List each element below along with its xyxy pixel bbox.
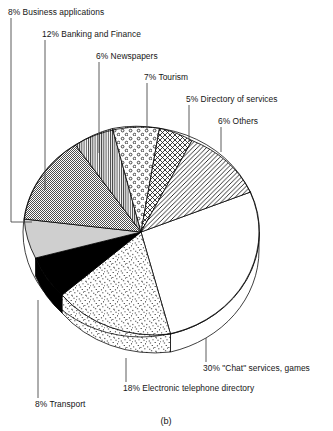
figure-caption: (b) (160, 416, 171, 426)
label-directory-of-services: 5% Directory of services (186, 94, 278, 104)
label-newspapers: 6% Newspapers (96, 51, 158, 61)
label-chat-services: 30% "Chat" services, games (203, 363, 310, 373)
pie-chart-figure: 8% Business applications 12% Banking and… (0, 0, 333, 431)
label-transport: 8% Transport (35, 399, 86, 409)
label-others: 6% Others (218, 116, 258, 126)
leader-business-applications (11, 18, 32, 222)
label-tourism: 7% Tourism (144, 72, 188, 82)
label-business-applications: 8% Business applications (8, 7, 104, 17)
label-electronic-telephone-directory: 18% Electronic telephone directory (123, 383, 255, 393)
figure-container: 8% Business applications 12% Banking and… (0, 0, 333, 431)
label-banking-and-finance: 12% Banking and Finance (42, 29, 141, 39)
